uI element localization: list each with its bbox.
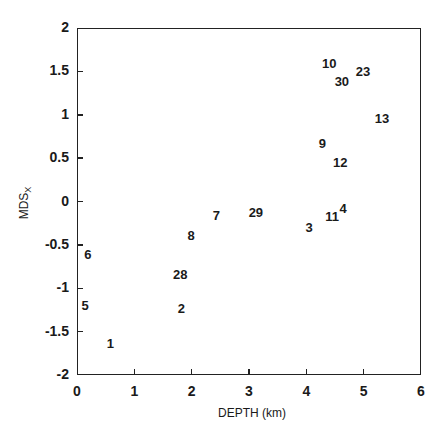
x-tick-label: 5: [349, 383, 379, 399]
data-point-label: 9: [319, 136, 326, 151]
y-tick-label: 1.5: [29, 62, 69, 78]
data-point-label: 10: [322, 55, 336, 70]
y-tick-label: 2: [29, 19, 69, 35]
data-point-label: 23: [356, 63, 370, 78]
data-point-label: 6: [84, 246, 91, 261]
y-tick-mark: [77, 288, 83, 290]
data-point-label: 12: [333, 154, 347, 169]
data-point-label: 7: [213, 208, 220, 223]
y-tick-label: -1.5: [29, 323, 69, 339]
y-tick-mark: [77, 114, 83, 116]
x-tick-label: 3: [234, 383, 264, 399]
x-tick-label: 6: [406, 383, 436, 399]
x-axis-title: DEPTH (km): [0, 406, 444, 420]
y-axis-title-subscript: X: [23, 187, 33, 193]
y-axis-title: MDSX: [17, 187, 31, 220]
x-tick-label: 0: [62, 383, 92, 399]
x-tick-label: 1: [119, 383, 149, 399]
y-tick-mark: [77, 244, 83, 246]
data-point-label: 29: [249, 204, 263, 219]
y-tick-label: 0: [29, 193, 69, 209]
x-tick-label: 2: [177, 383, 207, 399]
data-point-label: 8: [187, 228, 194, 243]
y-tick-label: 0.5: [29, 149, 69, 165]
y-tick-mark: [77, 71, 83, 73]
x-tick-mark: [191, 369, 193, 375]
y-tick-label: 1: [29, 106, 69, 122]
data-point-label: 30: [335, 73, 349, 88]
x-tick-mark: [248, 369, 250, 375]
data-point-label: 1: [107, 335, 114, 350]
data-point-label: 13: [375, 111, 389, 126]
x-tick-mark: [306, 369, 308, 375]
y-tick-mark: [77, 157, 83, 159]
y-axis-title-main: MDS: [17, 193, 31, 220]
y-tick-label: -0.5: [29, 236, 69, 252]
data-point-label: 28: [173, 266, 187, 281]
data-point-label: 5: [81, 297, 88, 312]
y-tick-label: -1: [29, 279, 69, 295]
x-tick-mark: [134, 369, 136, 375]
data-point-label: 11: [325, 209, 339, 224]
y-tick-mark: [77, 331, 83, 333]
data-point-label: 4: [339, 200, 346, 215]
plot-area: [77, 28, 421, 375]
data-point-label: 3: [306, 219, 313, 234]
x-tick-label: 4: [291, 383, 321, 399]
x-tick-mark: [363, 369, 365, 375]
data-point-label: 2: [178, 301, 185, 316]
y-tick-mark: [77, 201, 83, 203]
y-tick-label: -2: [29, 366, 69, 382]
scatter-chart: 21.510.50-0.5-1-1.5-20123456 12345678910…: [0, 0, 444, 440]
